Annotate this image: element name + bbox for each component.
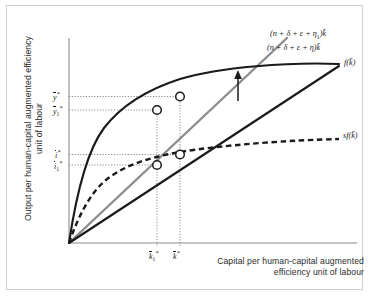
- y-tick-y1-star: y1*: [53, 104, 63, 117]
- curve-label-production-function: f(k̄): [344, 58, 355, 67]
- break-even-line-new: [69, 38, 287, 243]
- marker-old-investment: [176, 150, 185, 159]
- curve-label-break-even-new-tail: )k̄: [320, 29, 326, 38]
- curve-label-saving-function: sf(k̄): [343, 131, 358, 140]
- y-tick-i1-star: i1*: [54, 159, 62, 172]
- guide-lines: [69, 97, 180, 248]
- curve-label-break-even-new-head: (n + δ + ε + η: [270, 29, 317, 38]
- break-even-line-original: [69, 66, 339, 243]
- marker-old-output: [176, 92, 185, 101]
- x-tick-k-star: k*: [173, 249, 180, 261]
- x-tick-k1-star: k1*: [149, 249, 159, 262]
- marker-new-investment: [153, 161, 162, 170]
- solow-model-diagram: Output per human-capital augmented effic…: [0, 0, 370, 297]
- curve-label-break-even-original: (n + δ + ε + η)k̄: [267, 43, 320, 52]
- y-tick-i-star: i*: [55, 148, 61, 160]
- marker-new-output: [153, 106, 162, 115]
- curve-label-break-even-new: (n + δ + ε + η1)k̄: [270, 29, 326, 40]
- y-axis-title: Output per human-capital augmented effic…: [23, 34, 44, 224]
- y-tick-y-star: y*: [53, 90, 60, 102]
- x-axis-title: Capital per human-capital augmented effi…: [212, 256, 364, 277]
